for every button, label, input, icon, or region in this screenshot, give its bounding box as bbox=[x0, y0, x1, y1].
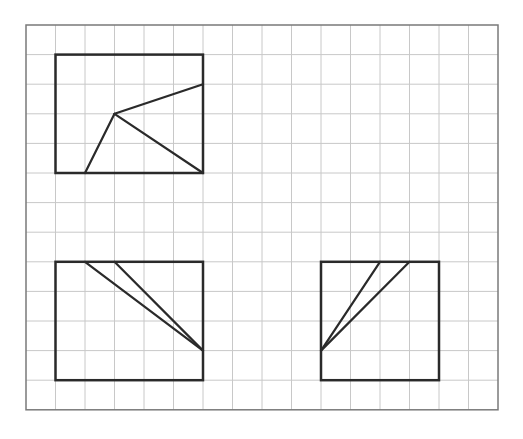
figure-segment bbox=[115, 262, 204, 351]
figure-segment bbox=[115, 84, 204, 114]
grid-diagram bbox=[0, 0, 523, 439]
figure-segment bbox=[321, 262, 410, 351]
figures bbox=[56, 55, 440, 381]
grid-lines bbox=[26, 25, 498, 410]
